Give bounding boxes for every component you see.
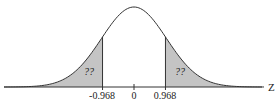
tick-label-neg: -0.968 <box>89 90 115 101</box>
left-area-label: ?? <box>84 66 94 77</box>
right-tail-shaded-area <box>165 37 264 87</box>
z-axis-label: Z <box>268 81 275 93</box>
tick-label-pos: 0.968 <box>154 90 177 101</box>
normal-curve <box>4 7 264 87</box>
right-area-label: ?? <box>175 66 185 77</box>
left-tail-shaded-area <box>4 37 103 87</box>
normal-curve-chart: Z -0.968 0 0.968 ?? ?? <box>0 0 278 103</box>
tick-label-zero: 0 <box>132 90 137 101</box>
